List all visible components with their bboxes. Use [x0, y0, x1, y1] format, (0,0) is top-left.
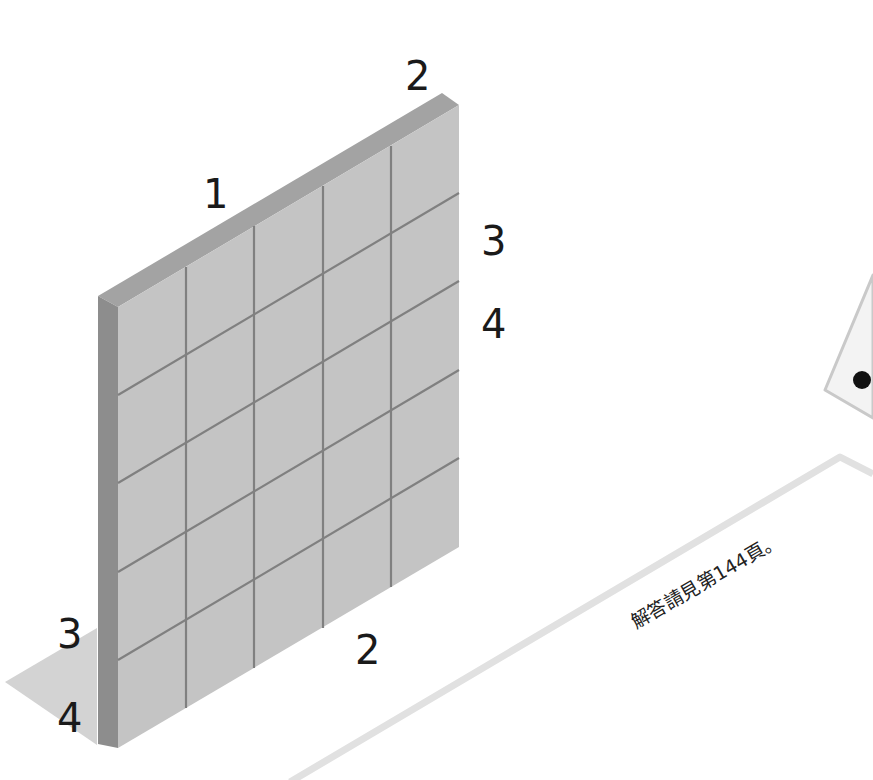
label-right-lower: 4: [481, 301, 506, 347]
diagram-canvas: 1 2 3 4 3 4 2 解答請見第144頁。: [0, 0, 873, 780]
label-left-upper: 3: [57, 611, 82, 657]
answer-caption: 解答請見第144頁。: [627, 529, 785, 633]
floor-shadow: [5, 628, 97, 745]
label-top-right: 2: [405, 53, 430, 99]
dice-card: [825, 275, 873, 418]
label-bottom: 2: [355, 627, 380, 673]
dot-icon: [853, 371, 871, 389]
label-top-left: 1: [203, 171, 228, 217]
label-left-lower: 4: [57, 695, 82, 741]
label-right-upper: 3: [481, 218, 506, 264]
wall-side-edge: [98, 296, 118, 748]
